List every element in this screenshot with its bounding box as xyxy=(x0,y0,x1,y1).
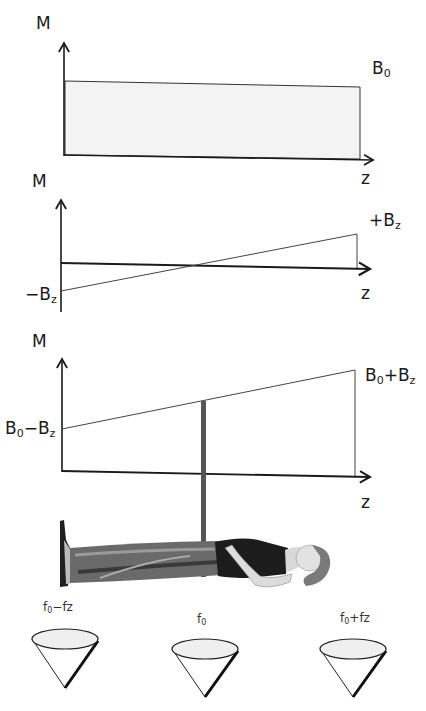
panel1-y-axis-label: M xyxy=(36,15,51,32)
neg-bz-prefix: −B xyxy=(25,284,51,304)
l-b: B xyxy=(38,418,50,438)
panel3-y-axis-label: M xyxy=(32,333,47,350)
l-a: B xyxy=(5,418,17,438)
x-axis xyxy=(61,263,370,269)
panel-uniform-field xyxy=(64,43,373,160)
pos-bz-prefix: +B xyxy=(369,210,395,230)
panel3-x-axis-label: z xyxy=(361,494,370,511)
cone-low-label: f0−fz xyxy=(43,601,73,615)
panel2-y-axis-label: M xyxy=(32,173,47,190)
panel2-x-axis-label: z xyxy=(361,285,370,302)
cone-high-label: f0+fz xyxy=(340,612,370,626)
cone-center-label: f0 xyxy=(197,613,206,627)
l-op: − xyxy=(24,418,38,438)
uniform-field-region xyxy=(65,81,360,159)
l-a-sub: 0 xyxy=(17,427,24,440)
c2-rest: +fz xyxy=(349,611,370,625)
panel-gradient-field xyxy=(61,200,370,312)
precession-cone-high xyxy=(320,639,386,697)
l-b-sub: z xyxy=(50,427,56,440)
b0-base: B xyxy=(372,58,384,78)
neg-bz-sub: z xyxy=(51,293,57,306)
precession-cone-low xyxy=(32,629,98,688)
patient-figure xyxy=(60,520,330,587)
panel-combined-field xyxy=(62,359,370,477)
c1-sub: 0 xyxy=(201,618,206,627)
b0-sub: 0 xyxy=(384,67,391,80)
r-b-sub: z xyxy=(410,374,416,387)
r-b: B xyxy=(398,365,410,385)
r-op: + xyxy=(384,365,398,385)
r-a-sub: 0 xyxy=(377,374,384,387)
panel2-negative-bz-label: −Bz xyxy=(25,286,57,305)
panel2-positive-bz-label: +Bz xyxy=(369,212,401,231)
panel3-left-label: B0−Bz xyxy=(5,420,55,439)
r-a: B xyxy=(365,365,377,385)
panel1-x-axis-label: z xyxy=(361,170,370,187)
pos-bz-sub: z xyxy=(395,219,401,232)
c0-rest: −fz xyxy=(52,600,73,614)
panel3-right-label: B0+Bz xyxy=(365,367,415,386)
x-axis xyxy=(62,471,370,477)
combined-field-line xyxy=(62,370,355,429)
gradient-line xyxy=(61,234,357,291)
precession-cone-center xyxy=(172,639,238,697)
panel1-b0-label: B0 xyxy=(372,60,391,79)
